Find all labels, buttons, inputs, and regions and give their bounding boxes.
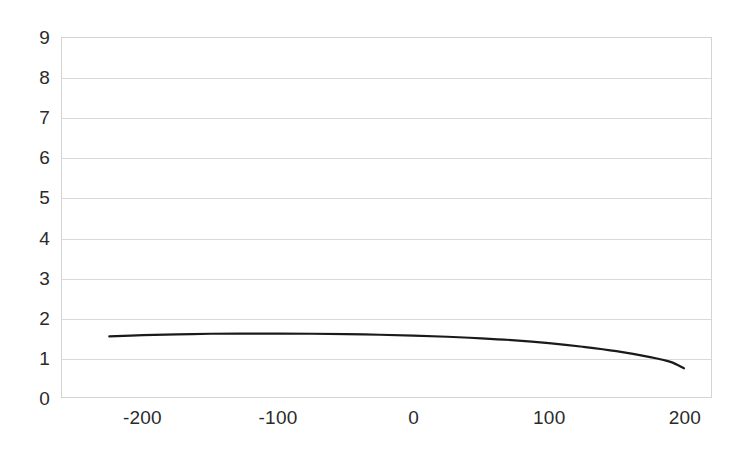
- y-tick-label: 8: [0, 68, 50, 87]
- x-tick-label: 100: [533, 408, 565, 427]
- series-line-chart: [62, 38, 711, 397]
- y-tick-label: 4: [0, 228, 50, 247]
- y-tick-label: 9: [0, 28, 50, 47]
- y-tick-label: 0: [0, 389, 50, 408]
- y-tick-label: 6: [0, 148, 50, 167]
- x-tick-label: -100: [259, 408, 298, 427]
- x-tick-label: -200: [123, 408, 162, 427]
- y-tick-label: 5: [0, 188, 50, 207]
- plot-area: [61, 37, 712, 398]
- y-axis-tick-labels: 9876543210: [0, 37, 50, 398]
- x-tick-label: 0: [408, 408, 419, 427]
- x-tick-label: 200: [669, 408, 701, 427]
- y-tick-label: 7: [0, 108, 50, 127]
- y-tick-label: 2: [0, 308, 50, 327]
- chart-container: 9876543210 -200-1000100200: [0, 0, 750, 468]
- series-1-line: [109, 334, 684, 369]
- y-tick-label: 1: [0, 348, 50, 367]
- y-tick-label: 3: [0, 268, 50, 287]
- x-axis-tick-labels: -200-1000100200: [0, 408, 750, 438]
